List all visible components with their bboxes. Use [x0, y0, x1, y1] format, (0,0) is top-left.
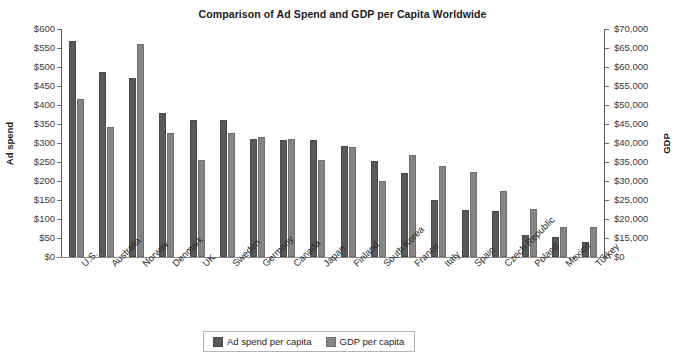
- y-tick-label: $550: [0, 43, 55, 53]
- y2-tick-label: $60,000: [614, 62, 676, 72]
- legend-item[interactable]: Ad spend per capita: [213, 336, 312, 347]
- y2-tick-label: $0: [614, 252, 676, 262]
- bar-ad-spend[interactable]: [99, 72, 106, 257]
- legend-swatch-gdp: [326, 337, 336, 347]
- y-tick-label: $500: [0, 62, 55, 72]
- y2-tick-label: $40,000: [614, 138, 676, 148]
- bar-ad-spend[interactable]: [129, 78, 136, 257]
- y2-tick-mark: [605, 143, 609, 144]
- bar-ad-spend[interactable]: [220, 120, 227, 257]
- y2-tick-mark: [605, 219, 609, 220]
- bar-gdp[interactable]: [590, 227, 597, 257]
- bar-gdp[interactable]: [137, 44, 144, 257]
- bar-gdp[interactable]: [107, 127, 114, 257]
- bar-ad-spend[interactable]: [462, 210, 469, 258]
- y-tick-label: $50: [0, 233, 55, 243]
- y-tick-label: $100: [0, 214, 55, 224]
- y-tick-label: $250: [0, 157, 55, 167]
- chart-title: Comparison of Ad Spend and GDP per Capit…: [0, 8, 685, 20]
- y-tick-label: $350: [0, 119, 55, 129]
- y2-tick-label: $15,000: [614, 233, 676, 243]
- legend-label: Ad spend per capita: [227, 336, 312, 347]
- y-tick-label: $600: [0, 24, 55, 34]
- y2-tick-mark: [605, 105, 609, 106]
- y2-tick-mark: [605, 181, 609, 182]
- bar-ad-spend[interactable]: [159, 113, 166, 257]
- y-tick-label: $0: [0, 252, 55, 262]
- bar-gdp[interactable]: [349, 147, 356, 257]
- bar-ad-spend[interactable]: [69, 41, 76, 257]
- y2-tick-label: $65,000: [614, 43, 676, 53]
- legend-swatch-ad: [213, 337, 223, 347]
- y2-tick-label: $55,000: [614, 81, 676, 91]
- y2-tick-mark: [605, 124, 609, 125]
- bar-gdp[interactable]: [470, 172, 477, 257]
- y-tick-label: $300: [0, 138, 55, 148]
- bar-gdp[interactable]: [500, 191, 507, 257]
- y-tick-label: $400: [0, 100, 55, 110]
- y-tick-label: $200: [0, 176, 55, 186]
- bar-gdp[interactable]: [258, 137, 265, 257]
- y2-tick-label: $35,000: [614, 157, 676, 167]
- bars-layer: [61, 29, 605, 257]
- y2-tick-label: $50,000: [614, 100, 676, 110]
- y2-tick-mark: [605, 48, 609, 49]
- y2-tick-mark: [605, 238, 609, 239]
- legend-label: GDP per capita: [340, 336, 405, 347]
- y2-tick-label: $30,000: [614, 176, 676, 186]
- bar-gdp[interactable]: [167, 133, 174, 257]
- y-tick-label: $150: [0, 195, 55, 205]
- bar-ad-spend[interactable]: [341, 146, 348, 257]
- y2-tick-mark: [605, 29, 609, 30]
- bar-gdp[interactable]: [560, 227, 567, 257]
- y2-tick-mark: [605, 162, 609, 163]
- y2-tick-mark: [605, 200, 609, 201]
- chart-legend: Ad spend per capitaGDP per capita: [203, 331, 415, 352]
- legend-item[interactable]: GDP per capita: [326, 336, 405, 347]
- y2-tick-mark: [605, 67, 609, 68]
- chart-container: Comparison of Ad Spend and GDP per Capit…: [0, 0, 685, 363]
- y2-tick-label: $20,000: [614, 214, 676, 224]
- bar-gdp[interactable]: [439, 166, 446, 257]
- y2-tick-label: $70,000: [614, 24, 676, 34]
- y2-tick-mark: [605, 86, 609, 87]
- bar-gdp[interactable]: [77, 99, 84, 257]
- bar-gdp[interactable]: [228, 133, 235, 257]
- y2-tick-label: $45,000: [614, 119, 676, 129]
- y2-tick-label: $25,000: [614, 195, 676, 205]
- y-tick-label: $450: [0, 81, 55, 91]
